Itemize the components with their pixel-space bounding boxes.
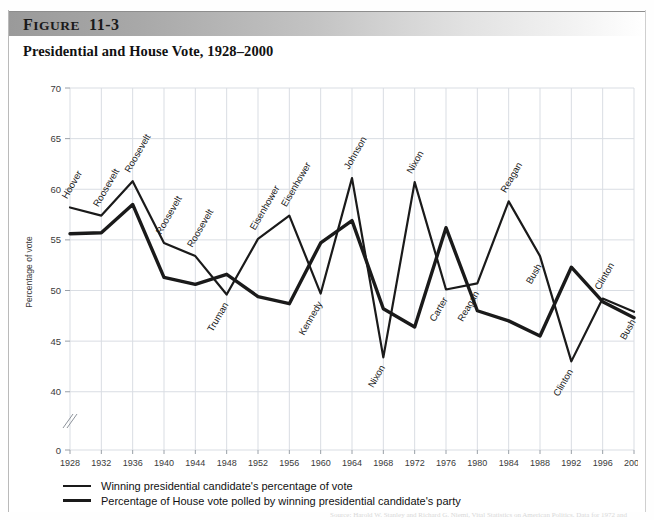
x-tick-label: 1968 bbox=[373, 458, 393, 468]
x-tick-label: 1996 bbox=[593, 458, 613, 468]
x-tick-label: 1948 bbox=[217, 458, 237, 468]
data-point-annotation: Roosevelt bbox=[185, 207, 216, 249]
figure-root: FIGURE11-3 Presidential and House Vote, … bbox=[0, 0, 654, 520]
y-tick-label: 65 bbox=[50, 133, 61, 144]
grid-layer bbox=[70, 88, 634, 450]
legend-label-house: Percentage of House vote polled by winni… bbox=[101, 495, 461, 507]
y-tick-label: 0 bbox=[56, 445, 61, 456]
x-tick-label: 1972 bbox=[405, 458, 425, 468]
x-tick-label: 1976 bbox=[436, 458, 456, 468]
data-point-annotation: Roosevelt bbox=[91, 166, 122, 208]
figure-title: Presidential and House Vote, 1928–2000 bbox=[23, 43, 273, 60]
data-point-annotation: Johnson bbox=[341, 135, 368, 172]
x-tick-label: 1964 bbox=[342, 458, 362, 468]
x-tick-label: 1952 bbox=[248, 458, 268, 468]
x-tick-label: 1956 bbox=[279, 458, 299, 468]
chart-legend: Winning presidential candidate's percent… bbox=[63, 478, 583, 508]
data-point-annotation: Hoover bbox=[59, 168, 84, 200]
y-tick-label: 70 bbox=[50, 83, 61, 94]
legend-swatch-presidential-icon bbox=[63, 485, 91, 487]
figure-word: FIGURE bbox=[23, 18, 80, 33]
data-point-annotation: Eisenhower bbox=[279, 160, 313, 208]
line-chart: 040455055606570 192819321936194019441948… bbox=[18, 72, 638, 472]
legend-swatch-house-icon bbox=[63, 499, 91, 502]
source-note: Source: Harold W. Stanley and Richard G.… bbox=[330, 511, 640, 519]
x-tick-label: 1936 bbox=[123, 458, 143, 468]
data-point-annotation: Roosevelt bbox=[122, 132, 153, 174]
legend-label-presidential: Winning presidential candidate's percent… bbox=[101, 480, 353, 492]
data-point-annotation: Bush bbox=[523, 262, 543, 286]
data-point-annotation: Roosevelt bbox=[153, 194, 184, 236]
legend-item-presidential: Winning presidential candidate's percent… bbox=[63, 478, 583, 493]
x-tick-label: 1960 bbox=[311, 458, 331, 468]
data-point-annotation: Bush bbox=[617, 317, 637, 341]
figure-header-bar: FIGURE11-3 bbox=[9, 11, 645, 36]
figure-word-initial: F bbox=[23, 16, 33, 33]
x-tick-label: 1988 bbox=[530, 458, 550, 468]
y-tick-label: 55 bbox=[50, 234, 61, 245]
x-tick-label: 1928 bbox=[60, 458, 80, 468]
figure-number: 11-3 bbox=[89, 16, 119, 33]
annotation-layer: HooverRooseveltRooseveltRooseveltRooseve… bbox=[59, 132, 638, 398]
figure-number-label: FIGURE11-3 bbox=[23, 16, 120, 34]
y-tick-label: 45 bbox=[50, 336, 61, 347]
data-point-annotation: Nixon bbox=[404, 149, 426, 176]
y-axis-title-layer: Percentage of vote bbox=[24, 236, 34, 308]
x-tick-layer: 1928193219361940194419481952195619601964… bbox=[60, 450, 638, 468]
figure-word-rest: IGURE bbox=[33, 18, 80, 33]
x-tick-label: 1932 bbox=[91, 458, 111, 468]
x-tick-label: 1980 bbox=[467, 458, 487, 468]
legend-item-house: Percentage of House vote polled by winni… bbox=[63, 493, 583, 508]
y-tick-layer: 040455055606570 bbox=[50, 83, 70, 456]
y-tick-label: 40 bbox=[50, 386, 61, 397]
y-tick-label: 50 bbox=[50, 285, 61, 296]
x-tick-label: 1992 bbox=[561, 458, 581, 468]
x-tick-label: 1984 bbox=[499, 458, 519, 468]
x-tick-label: 1940 bbox=[154, 458, 174, 468]
x-tick-label: 1944 bbox=[185, 458, 205, 468]
y-axis-title: Percentage of vote bbox=[24, 236, 34, 308]
chart-plot-area: 040455055606570 192819321936194019441948… bbox=[18, 72, 638, 472]
data-point-annotation: Clinton bbox=[592, 260, 616, 291]
x-tick-label: 2000 bbox=[624, 458, 638, 468]
